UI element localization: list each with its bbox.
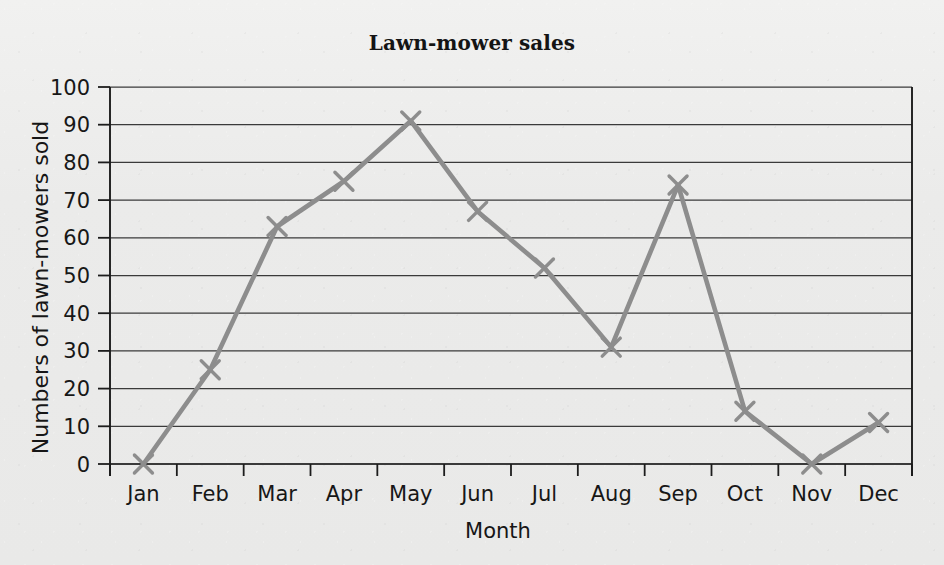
x-tick-label: Apr (326, 482, 363, 506)
y-tick-label: 10 (63, 415, 90, 439)
axis-lines-group (110, 87, 912, 476)
x-tick-labels-group: JanFebMarAprMayJunJulAugSepOctNovDec (125, 482, 899, 506)
data-point-marker (201, 361, 219, 379)
x-tick-label: Dec (858, 482, 899, 506)
x-tick-label: Aug (591, 482, 632, 506)
y-tick-label: 90 (63, 113, 90, 137)
y-tick-label: 60 (63, 226, 90, 250)
gridlines-group (110, 87, 912, 464)
data-point-marker (469, 202, 487, 220)
chart-page: Lawn-mower sales Numbers of lawn-mowers … (0, 0, 944, 565)
plot-area: 0102030405060708090100 JanFebMarAprMayJu… (0, 0, 944, 565)
data-point-marker (402, 112, 420, 130)
data-point-marker (535, 259, 553, 277)
y-tick-label: 20 (63, 377, 90, 401)
data-point-marker (268, 217, 286, 235)
x-tick-label: Feb (192, 482, 229, 506)
data-point-marker (335, 172, 353, 190)
x-tick-label: Oct (727, 482, 763, 506)
y-tick-label: 0 (77, 453, 90, 477)
x-tick-label: Mar (257, 482, 297, 506)
x-tick-label: Sep (658, 482, 698, 506)
data-point-marker (602, 338, 620, 356)
y-tick-label: 40 (63, 302, 90, 326)
y-tick-label: 30 (63, 339, 90, 363)
y-tick-labels-group: 0102030405060708090100 (50, 76, 90, 477)
line-chart-svg: 0102030405060708090100 JanFebMarAprMayJu… (0, 0, 944, 565)
x-tick-label: Jan (125, 482, 159, 506)
data-point-marker (870, 414, 888, 432)
y-tick-marks-group (98, 87, 110, 464)
x-tick-label: May (389, 482, 432, 506)
data-series-line (143, 121, 878, 464)
y-tick-label: 50 (63, 264, 90, 288)
x-tick-label: Nov (791, 482, 832, 506)
y-tick-label: 100 (50, 76, 90, 100)
y-tick-label: 80 (63, 151, 90, 175)
x-tick-label: Jul (530, 482, 557, 506)
y-tick-label: 70 (63, 189, 90, 213)
x-tick-label: Jun (459, 482, 494, 506)
x-tick-marks-group (110, 464, 912, 476)
